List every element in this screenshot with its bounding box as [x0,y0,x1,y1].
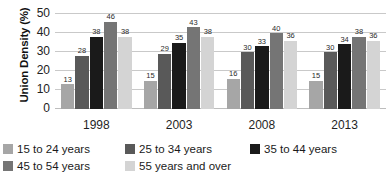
bar [284,41,297,109]
legend-label: 15 to 24 years [17,143,90,155]
bar [338,44,351,109]
bar [172,43,185,110]
bar-value-label: 38 [204,28,212,36]
legend-swatch-icon [125,144,135,154]
bar-value-label: 28 [78,47,86,55]
bar-value-label: 15 [312,72,320,80]
bar-value-label: 46 [107,13,115,21]
bar-set: 1328384638 [55,14,138,109]
bar-value-label: 34 [340,36,348,44]
legend-label: 35 to 44 years [264,143,337,155]
bar [201,37,214,109]
bar-value-label: 36 [369,32,377,40]
bar-column: 15 [144,14,157,109]
bar-column: 13 [61,14,74,109]
bar-column: 30 [324,14,337,109]
bar [255,46,268,109]
legend-label: 25 to 34 years [139,143,212,155]
bar-column: 34 [338,14,351,109]
x-axis-label: 2013 [303,118,386,132]
bar-column: 38 [201,14,214,109]
bar-value-label: 40 [272,25,280,33]
plot-area: 01020304050 1328384638199815293543382003… [55,14,386,109]
bar-column: 16 [227,14,240,109]
legend-label: 45 to 54 years [17,160,90,172]
bar-value-label: 33 [258,38,266,46]
bar-column: 36 [367,14,380,109]
y-tick-label: 40 [37,26,50,38]
bar-group: 16303340362008 [221,14,304,109]
bar [270,33,283,109]
bar [187,27,200,109]
x-axis-label: 2003 [138,118,221,132]
bar-column: 15 [309,14,322,109]
bar-value-label: 30 [243,44,251,52]
bar-group: 13283846381998 [55,14,138,109]
y-tick-label: 20 [37,64,50,76]
bar [241,52,254,109]
y-tick-label: 50 [37,7,50,19]
bar [61,84,74,109]
bar [352,37,365,109]
y-tick-label: 0 [43,102,50,114]
bar-set: 1529354338 [138,14,221,109]
bar [158,54,171,109]
bar [367,41,380,109]
legend-swatch-icon [3,144,13,154]
bar-value-label: 38 [92,28,100,36]
legend-label: 55 years and over [139,160,231,172]
legend-swatch-icon [3,161,13,171]
legend-item[interactable]: 55 years and over [125,157,250,174]
x-axis-label: 2008 [221,118,304,132]
bar-value-label: 43 [189,19,197,27]
y-tick-label: 10 [37,83,50,95]
bar-groups: 1328384638199815293543382003163033403620… [55,14,386,109]
bar-column: 38 [90,14,103,109]
bar-group: 15303438362013 [303,14,386,109]
bar-value-label: 38 [121,28,129,36]
bar [75,56,88,109]
bar [118,37,131,109]
bar-column: 38 [352,14,365,109]
y-axis-title: Union Density (%) [18,0,30,110]
bar-column: 29 [158,14,171,109]
bar [144,81,157,110]
bar [90,37,103,109]
bar-column: 28 [75,14,88,109]
chart-legend: 15 to 24 years25 to 34 years35 to 44 yea… [3,140,389,174]
legend-item[interactable]: 45 to 54 years [3,157,125,174]
bar-value-label: 36 [286,32,294,40]
bar [309,81,322,110]
legend-item[interactable]: 15 to 24 years [3,140,125,157]
bar-value-label: 13 [64,76,72,84]
bar [324,52,337,109]
legend-swatch-icon [125,161,135,171]
bar-value-label: 38 [355,28,363,36]
bar-value-label: 29 [161,45,169,53]
bar [104,22,117,109]
legend-item[interactable]: 25 to 34 years [125,140,250,157]
legend-item[interactable]: 35 to 44 years [250,140,385,157]
bar-column: 35 [172,14,185,109]
bar-value-label: 35 [175,34,183,42]
union-density-bar-chart: Union Density (%) 01020304050 1328384638… [0,0,392,179]
y-tick-label: 30 [37,45,50,57]
bar-column: 40 [270,14,283,109]
legend-swatch-icon [250,144,260,154]
bar [227,79,240,109]
bar-set: 1630334036 [221,14,304,109]
bar-column: 36 [284,14,297,109]
bar-column: 43 [187,14,200,109]
bar-group: 15293543382003 [138,14,221,109]
bar-set: 1530343836 [303,14,386,109]
bar-column: 38 [118,14,131,109]
bar-value-label: 15 [146,72,154,80]
x-axis-label: 1998 [55,118,138,132]
bar-value-label: 16 [229,70,237,78]
bar-column: 46 [104,14,117,109]
bar-column: 30 [241,14,254,109]
bar-value-label: 30 [326,44,334,52]
bar-column: 33 [255,14,268,109]
